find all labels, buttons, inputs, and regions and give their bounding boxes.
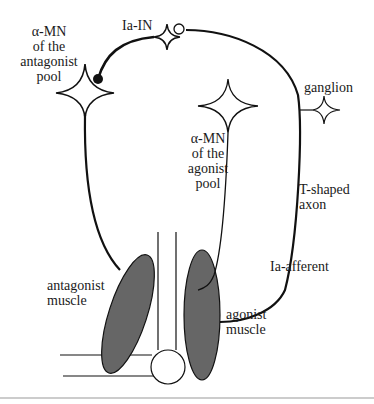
agonist-mn-label: α-MN of the agonist pool [176, 131, 240, 191]
label-line: agonist [226, 307, 266, 322]
label-line: T-shaped [299, 182, 350, 197]
diagram-canvas: α-MN of the antagonist pool Ia-IN gangli… [0, 0, 374, 404]
agonist-mn-soma-icon [198, 79, 258, 133]
label-line: α-MN [176, 131, 240, 146]
label-line: antagonist [14, 54, 84, 69]
label-line: antagonist [47, 278, 105, 293]
inhibitory-synapse-icon [93, 74, 103, 84]
antagonist-mn-axon [85, 115, 120, 270]
ia-in-label: Ia-IN [122, 18, 152, 33]
excitatory-synapse-icon [174, 24, 184, 34]
label-line: agonist [176, 161, 240, 176]
ganglion-soma-icon [312, 96, 340, 124]
label-line: pool [14, 69, 84, 84]
label-line: axon [299, 197, 350, 212]
ganglion-label: ganglion [304, 80, 353, 95]
t-shaped-axon-label: T-shaped axon [299, 182, 350, 212]
label-line: pool [176, 176, 240, 191]
ia-in-axon [98, 37, 154, 79]
agonist-muscle-label: agonist muscle [226, 307, 266, 337]
antagonist-mn-label: α-MN of the antagonist pool [14, 24, 84, 84]
label-line: muscle [226, 322, 266, 337]
label-line: of the [14, 39, 84, 54]
agonist-muscle [184, 250, 220, 380]
antagonist-muscle-label: antagonist muscle [47, 278, 105, 308]
ia-afferent-label: Ia-afferent [270, 259, 329, 274]
label-line: muscle [47, 293, 105, 308]
label-line: of the [176, 146, 240, 161]
label-line: α-MN [14, 24, 84, 39]
